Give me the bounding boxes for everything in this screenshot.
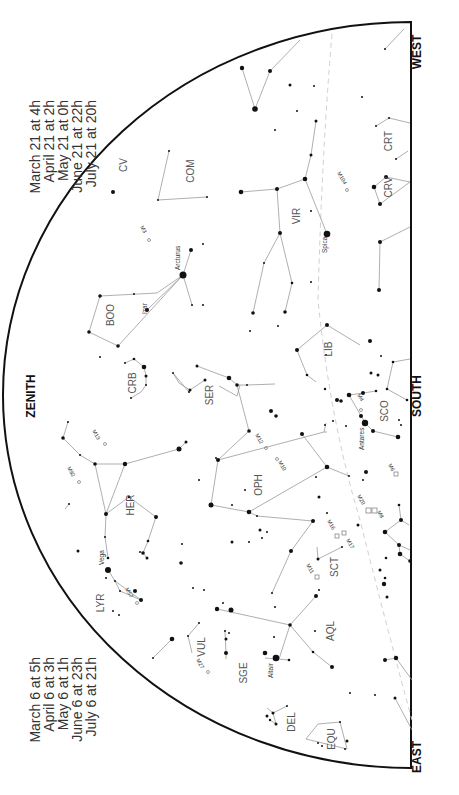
svg-text:M16: M16 xyxy=(326,519,337,531)
svg-text:M8: M8 xyxy=(376,510,385,520)
svg-text:BOO: BOO xyxy=(105,304,116,326)
svg-text:SER: SER xyxy=(204,385,215,406)
svg-text:M3: M3 xyxy=(139,225,148,235)
east-label: EAST xyxy=(410,740,424,773)
svg-text:SGE: SGE xyxy=(238,662,249,683)
svg-text:HER: HER xyxy=(125,494,136,515)
svg-text:M92: M92 xyxy=(66,466,77,478)
svg-text:SCT: SCT xyxy=(329,557,340,577)
svg-text:EQU: EQU xyxy=(326,728,337,750)
svg-text:LYR: LYR xyxy=(95,594,106,613)
svg-text:M11: M11 xyxy=(305,563,315,575)
object-labels: M104 M3 M13 M92 M12 M10 M4 M6 M8 M20 M16… xyxy=(66,171,396,670)
svg-text:M6: M6 xyxy=(387,463,396,473)
time-table-top: March 21 at 4h April 21 at 2h May 21 at … xyxy=(27,100,99,193)
star-arcturus xyxy=(180,272,187,279)
svg-text:SCO: SCO xyxy=(379,400,390,422)
svg-text:VUL: VUL xyxy=(196,637,207,657)
svg-text:CRV: CRV xyxy=(383,176,394,197)
ecliptic-line xyxy=(318,34,412,720)
svg-text:M27: M27 xyxy=(195,658,206,670)
svg-text:July 21 at 20h: July 21 at 20h xyxy=(83,100,99,187)
altair-label: Altair xyxy=(267,662,274,678)
arcturus-label: Arcturus xyxy=(174,245,181,270)
svg-text:M13: M13 xyxy=(91,429,102,441)
svg-text:DEL: DEL xyxy=(286,712,297,732)
svg-text:M17: M17 xyxy=(345,538,356,550)
star-antares xyxy=(362,420,368,426)
svg-text:VIR: VIR xyxy=(291,208,302,225)
svg-text:July 6 at 21h: July 6 at 21h xyxy=(83,657,99,736)
star-chart: WEST EAST SOUTH ZENITH March 21 at 4h Ap… xyxy=(0,0,459,795)
svg-text:COM: COM xyxy=(185,159,196,182)
deep-sky-objects xyxy=(78,189,399,674)
zenith-label: ZENITH xyxy=(24,374,38,417)
svg-text:CRT: CRT xyxy=(383,131,394,151)
svg-text:CRB: CRB xyxy=(127,372,138,393)
antares-label: Antares xyxy=(358,427,365,450)
svg-text:LIB: LIB xyxy=(323,341,334,356)
west-label: WEST xyxy=(410,34,424,69)
constellation-labels: COM CRT CRV VIR BOO CRB SER LIB SCO OPH … xyxy=(95,131,394,750)
svg-text:M104: M104 xyxy=(336,171,348,186)
star-altair xyxy=(273,655,280,662)
spica-label: Spica xyxy=(321,236,329,253)
svg-text:M10: M10 xyxy=(277,460,288,472)
svg-text:AQL: AQL xyxy=(325,621,336,641)
svg-text:CV: CV xyxy=(118,158,129,172)
star-spica xyxy=(324,231,331,238)
south-label: SOUTH xyxy=(410,375,424,417)
svg-text:M12: M12 xyxy=(254,433,265,445)
vega-label: Vega xyxy=(98,550,106,565)
star-vega xyxy=(105,567,111,573)
svg-text:M20: M20 xyxy=(356,494,367,506)
time-table-bottom: March 6 at 5h April 6 at 3h May 6 at 1h … xyxy=(27,657,99,743)
izar-label: Izar xyxy=(141,302,148,314)
svg-text:OPH: OPH xyxy=(253,474,264,496)
